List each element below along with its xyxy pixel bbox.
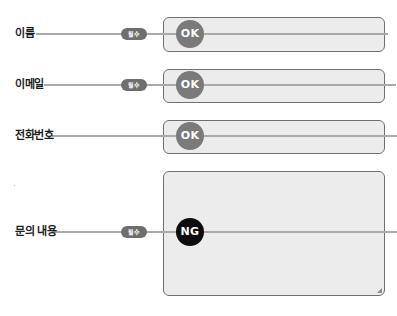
- name-connector-line: [36, 33, 388, 35]
- name-status-ok-icon: OK: [176, 20, 204, 48]
- name-label: 이름: [15, 27, 34, 41]
- email-status-ok-icon: OK: [176, 71, 204, 99]
- inquiry-status-ng-icon: NG: [176, 218, 204, 246]
- email-connector-line: [44, 84, 396, 86]
- phone-connector-line: [52, 135, 397, 137]
- phone-status-ok-icon: OK: [176, 122, 204, 150]
- decorative-speck: [14, 185, 15, 186]
- email-label: 이메일: [15, 78, 44, 92]
- phone-label: 전화번호: [15, 129, 53, 143]
- inquiry-connector-line: [52, 231, 397, 233]
- inquiry-required-badge: 필수: [121, 226, 147, 238]
- name-required-badge: 필수: [121, 28, 147, 40]
- email-required-badge: 필수: [121, 79, 147, 91]
- resize-handle-icon[interactable]: [377, 288, 382, 293]
- inquiry-label: 문의 내용: [15, 225, 56, 239]
